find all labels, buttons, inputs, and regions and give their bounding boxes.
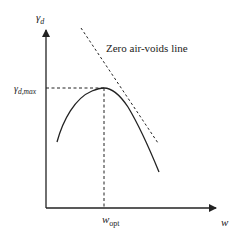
compaction-curve [57,88,159,172]
gamma-max-label: γd,max [14,83,37,96]
x-axis-label: w [221,216,229,228]
zero-air-voids-label: Zero air-voids line [106,42,188,54]
compaction-curve-diagram: γd γd,max Zero air-voids line wopt w [0,0,239,232]
y-axis-label: γd [36,11,45,26]
w-opt-label: wopt [102,213,120,228]
